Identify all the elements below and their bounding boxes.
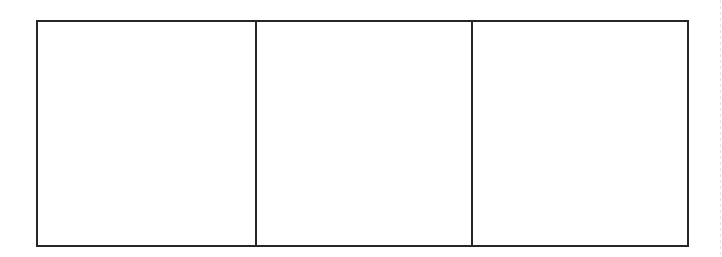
panel-right <box>471 22 687 245</box>
panel-left <box>38 22 255 245</box>
panel-middle <box>255 22 471 245</box>
edge-dashed-line <box>720 0 721 257</box>
three-panel-frame <box>36 20 689 247</box>
